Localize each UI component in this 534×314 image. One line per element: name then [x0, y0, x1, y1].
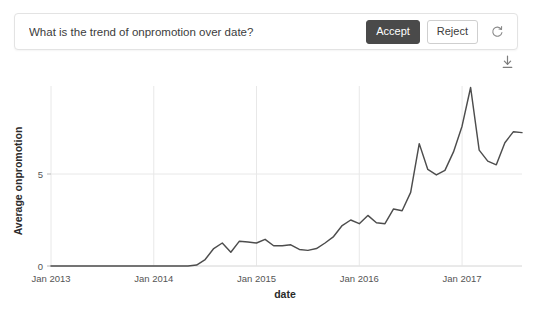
y-tick-label: 0 — [38, 261, 43, 272]
line-chart: 05 Jan 2013Jan 2014Jan 2015Jan 2016Jan 2… — [0, 76, 534, 314]
x-tick-label: Jan 2016 — [340, 273, 379, 284]
x-tick-label: Jan 2017 — [443, 273, 482, 284]
download-icon[interactable] — [501, 55, 514, 73]
x-axis-ticks: Jan 2013Jan 2014Jan 2015Jan 2016Jan 2017 — [31, 273, 481, 284]
question-card: What is the trend of onpromotion over da… — [14, 13, 518, 50]
y-tick-label: 5 — [38, 169, 43, 180]
y-axis-ticks: 05 — [38, 169, 51, 272]
refresh-icon[interactable] — [487, 22, 507, 42]
x-tick-label: Jan 2015 — [237, 273, 276, 284]
x-axis-title: date — [274, 288, 296, 300]
accept-button[interactable]: Accept — [366, 20, 420, 44]
x-tick-label: Jan 2013 — [31, 273, 70, 284]
chart-canvas: 05 Jan 2013Jan 2014Jan 2015Jan 2016Jan 2… — [0, 76, 534, 314]
question-text: What is the trend of onpromotion over da… — [29, 26, 366, 38]
y-axis-title: Average onpromotion — [12, 127, 24, 236]
download-toolbar — [14, 55, 518, 73]
grid-lines — [51, 86, 522, 266]
question-card-actions: Accept Reject — [366, 20, 507, 44]
reject-button[interactable]: Reject — [427, 20, 478, 44]
x-tick-label: Jan 2014 — [134, 273, 173, 284]
series-line — [51, 88, 522, 266]
